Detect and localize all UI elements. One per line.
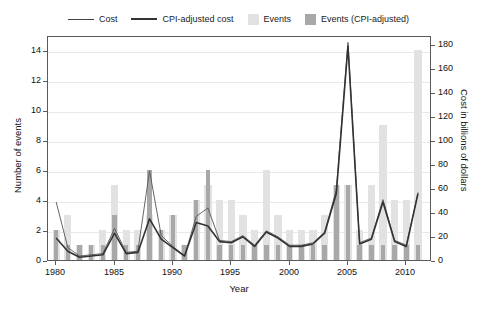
legend-item-cost: Cost [68,14,118,24]
legend-swatch-dark-icon [305,14,316,25]
legend-label-cpi-adjusted-cost: CPI-adjusted cost [162,14,233,24]
y-tick-left [43,231,47,232]
y-tick-label-right: 0 [438,255,462,265]
x-tick [405,261,406,265]
legend-label-cost: Cost [99,14,118,24]
y-tick-label-left: 10 [15,105,41,115]
x-tick-label: 2005 [333,267,361,277]
x-tick [172,261,173,265]
y-tick-left [43,141,47,142]
x-tick-label: 2010 [391,267,419,277]
y-tick-right [431,93,435,94]
y-axis-title-left: Number of events [12,118,23,193]
x-tick-label: 2000 [275,267,303,277]
legend-swatch-light-icon [248,14,259,25]
legend-line-icon [68,19,94,20]
x-tick [347,261,348,265]
y-tick-right [431,117,435,118]
y-tick-right [431,69,435,70]
y-tick-left [43,171,47,172]
y-tick-left [43,51,47,52]
x-tick-label: 1985 [100,267,128,277]
y-tick-right [431,45,435,46]
y-tick-right [431,165,435,166]
y-tick-label-left: 12 [15,75,41,85]
x-tick [289,261,290,265]
chart-legend: Cost CPI-adjusted cost Events Events (CP… [0,10,477,28]
y-tick-left [43,261,47,262]
y-tick-label-right: 180 [438,39,462,49]
y-tick-right [431,237,435,238]
y-tick-right [431,189,435,190]
x-tick [230,261,231,265]
y-tick-right [431,141,435,142]
y-tick-label-right: 40 [438,207,462,217]
y-tick-label-left: 4 [15,195,41,205]
x-tick-label: 1980 [41,267,69,277]
legend-line-thick-icon [131,18,157,20]
y-tick-label-left: 14 [15,45,41,55]
x-tick-label: 1990 [158,267,186,277]
line-cpi-adjusted-cost [56,46,418,257]
y-axis-title-right: Cost in billions of dollars [459,89,470,191]
y-tick-left [43,111,47,112]
legend-label-events-cpi-adjusted: Events (CPI-adjusted) [321,14,409,24]
x-tick [114,261,115,265]
x-tick [55,261,56,265]
y-tick-label-left: 2 [15,225,41,235]
x-tick-label: 1995 [216,267,244,277]
plot-area [47,36,431,261]
y-tick-label-right: 160 [438,63,462,73]
y-tick-left [43,201,47,202]
legend-label-events: Events [264,14,292,24]
chart-container: Cost CPI-adjusted cost Events Events (CP… [0,0,477,311]
y-tick-right [431,213,435,214]
line-series-layer [48,37,430,260]
plot-inner [48,37,430,260]
y-tick-label-left: 0 [15,255,41,265]
y-tick-right [431,261,435,262]
y-tick-label-right: 20 [438,231,462,241]
legend-item-events-cpi-adjusted: Events (CPI-adjusted) [305,14,409,25]
x-axis-title: Year [47,283,431,294]
legend-item-events: Events [248,14,292,25]
y-tick-left [43,81,47,82]
line-cost [56,42,418,256]
legend-item-cpi-adjusted-cost: CPI-adjusted cost [131,14,233,24]
